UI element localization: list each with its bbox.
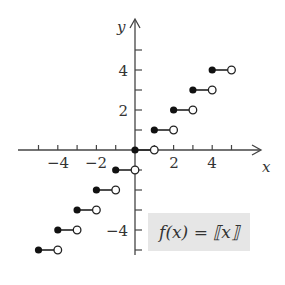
closed-dot-icon [74,206,81,213]
x-tick-label: −4 [47,154,69,172]
x-axis-label: x [262,158,271,176]
step-segment [170,106,197,114]
x-tick-label: 2 [169,154,179,172]
x-tick-label: −2 [85,154,107,172]
closed-dot-icon [131,146,138,153]
open-dot-icon [93,206,101,214]
step-segment [54,226,81,234]
chart-figure: x y −4 −2 2 4 4 2 −4 f(x) = ⟦x⟧ [0,0,285,285]
x-tick-label: 4 [207,154,217,172]
closed-dot-icon [93,186,100,193]
open-dot-icon [228,66,236,74]
closed-dot-icon [189,86,196,93]
closed-dot-icon [35,246,42,253]
step-segment [35,246,62,254]
open-dot-icon [73,226,81,234]
open-dot-icon [208,86,216,94]
open-dot-icon [189,106,197,114]
open-dot-icon [151,146,159,154]
function-label: f(x) = ⟦x⟧ [148,213,250,251]
step-segment [131,146,158,154]
y-tick-label: 4 [118,62,128,80]
step-segment [74,206,101,214]
closed-dot-icon [209,66,216,73]
open-dot-icon [54,246,62,254]
closed-dot-icon [170,106,177,113]
open-dot-icon [131,166,139,174]
step-segment [209,66,236,74]
step-segment [93,186,120,194]
open-dot-icon [170,126,178,134]
y-tick-label: −4 [106,222,128,240]
open-dot-icon [112,186,120,194]
y-axis-label: y [116,18,126,36]
y-tick-label: 2 [118,102,128,120]
step-segment [189,86,216,94]
closed-dot-icon [151,126,158,133]
step-segment [112,166,139,174]
closed-dot-icon [54,226,61,233]
step-segment [151,126,178,134]
closed-dot-icon [112,166,119,173]
